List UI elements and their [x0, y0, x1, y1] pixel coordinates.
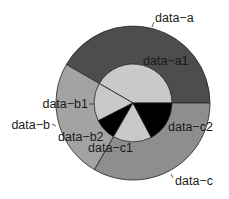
- label-data-b1: data−b1: [42, 97, 88, 111]
- leader-line: [52, 124, 56, 126]
- label-data-b: data−b: [11, 118, 50, 132]
- label-data-c1: data−c1: [88, 141, 133, 155]
- label-data-c2: data−c2: [168, 120, 213, 134]
- inner-ring: [94, 64, 172, 142]
- nested-pie-chart: data−adata−a1data−b1data−bdata−b2data−c1…: [0, 0, 229, 199]
- label-data-a: data−a: [155, 11, 194, 25]
- label-data-a1: data−a1: [143, 54, 189, 68]
- label-data-c: data−c: [175, 174, 213, 188]
- leader-line: [152, 22, 154, 27]
- leader-line: [171, 174, 173, 178]
